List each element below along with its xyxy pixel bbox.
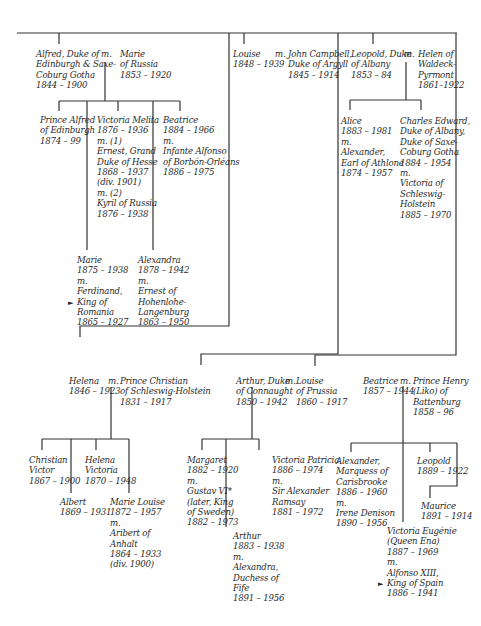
married-label: m. [404, 49, 415, 59]
child-charles-edward: Charles Edward, Duke of Albany, Duke of … [400, 116, 470, 220]
child-helena-victoria: Helena Victoria 1870 – 1948 [85, 455, 136, 486]
arrow-marker-icon: ► [68, 298, 73, 308]
child-leopold: Leopold 1889 – 1922 [417, 456, 468, 477]
child-victoria-patricia: Victoria Patricia 1886 – 1974 m. Sir Ale… [272, 455, 339, 517]
child-prince-alfred: Prince Alfred of Edinburgh 1874 – 99 [40, 115, 95, 146]
spouse-prince-henry: Prince Henry (Liko) of Battenburg 1858 –… [413, 376, 468, 418]
married-label: m. [101, 49, 112, 59]
child-alexander-carisbrooke: Alexander, Marquess of Carisbrooke 1886 … [336, 456, 395, 529]
child-marie-louise: Marie Louise 1872 – 1957 m. Aribert of A… [110, 497, 165, 570]
married-label: m. [108, 376, 119, 386]
married-label: m. [400, 376, 411, 386]
child-victoria-eugenie: Victoria Eugénie (Queen Ena) 1887 – 1969… [387, 526, 457, 599]
spouse-helen-of-waldeck: Helen of Waldeck- Pyrmont 1861–1922 [418, 49, 464, 91]
child-maurice: Maurice 1891 – 1914 [421, 501, 472, 522]
child-beatrice-edinburgh: Beatrice 1884 – 1966 m. Infante Alfonso … [163, 115, 239, 177]
child-margaret: Margaret 1882 – 1920 m. Gustav VI* (late… [187, 455, 238, 528]
person-leopold: Leopold, Duke of Albany 1853 – 84 [351, 49, 411, 80]
child-alice: Alice 1883 – 1981 m. Alexander, Earl of … [341, 116, 404, 178]
child-marie-of-romania: Marie 1875 – 1938 m. Ferdinand, King of … [77, 255, 128, 328]
arrow-marker-icon: ► [378, 579, 383, 589]
child-christian-victor: Christian Victor 1867 – 1900 [29, 455, 80, 486]
spouse-marie-of-russia: Marie of Russia 1853 – 1920 [120, 49, 171, 80]
spouse-louise-of-prussia: Louise of Prussia 1860 – 1917 [296, 376, 347, 407]
married-label: m. [285, 376, 296, 386]
married-label: m. [275, 49, 286, 59]
spouse-john-campbell: John Campbell, Duke of Argyll 1845 – 191… [288, 49, 352, 80]
child-albert: Albert 1869 – 1931 [60, 497, 111, 518]
child-victoria-melita: Victoria Melita 1876 – 1936 m. (1) Ernes… [97, 115, 159, 219]
child-arthur: Arthur 1883 – 1938 m. Alexandra, Duchess… [233, 531, 284, 604]
spouse-prince-christian: Prince Christian of Schleswig-Holstein 1… [120, 376, 211, 407]
child-alexandra: Alexandra 1878 – 1942 m. Ernest of Hohen… [138, 255, 189, 328]
